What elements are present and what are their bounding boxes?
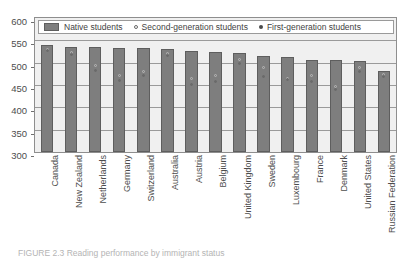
- x-tick: New Zealand: [59, 155, 83, 251]
- legend-entry: First-generation students: [259, 23, 361, 32]
- y-tick-mark: [31, 156, 34, 157]
- chart-legend: Native studentsSecond-generation student…: [38, 20, 394, 34]
- bar: [89, 47, 102, 152]
- first-generation-marker: [70, 53, 73, 56]
- first-generation-marker: [118, 79, 121, 82]
- bar: [330, 60, 343, 152]
- legend-label: First-generation students: [267, 23, 361, 32]
- legend-label: Native students: [64, 23, 123, 32]
- bar: [257, 56, 270, 152]
- bar: [185, 51, 198, 152]
- first-generation-marker: [214, 80, 217, 83]
- first-generation-marker: [142, 74, 145, 77]
- bar: [161, 49, 174, 152]
- x-tick: Denmark: [324, 155, 348, 251]
- x-tick: Belgium: [203, 155, 227, 251]
- legend-label: Second-generation students: [142, 23, 248, 32]
- second-generation-marker: [118, 74, 121, 77]
- y-tick-label: 400: [11, 106, 27, 116]
- y-tick-label: 300: [11, 151, 27, 161]
- bar: [233, 53, 246, 152]
- x-tick: Luxembourg: [276, 155, 300, 251]
- bar: [65, 47, 78, 152]
- x-tick: Russian Federation: [372, 155, 396, 251]
- bar: [113, 48, 126, 152]
- y-tick-label: 600: [11, 17, 27, 27]
- bar: [354, 61, 367, 152]
- bar-group: [209, 18, 222, 152]
- open-circle-icon: [134, 25, 138, 29]
- first-generation-marker: [94, 69, 97, 72]
- x-tick: Australia: [155, 155, 179, 251]
- bar-group: [306, 18, 319, 152]
- x-tick: Canada: [35, 155, 59, 251]
- legend-entry: Second-generation students: [134, 23, 248, 32]
- bar-group: [281, 18, 294, 152]
- y-axis: 600550500450400350300: [0, 11, 31, 159]
- first-generation-marker: [190, 83, 193, 86]
- x-tick-label: Russian Federation: [388, 155, 397, 233]
- x-tick: Austria: [179, 155, 203, 251]
- legend-square-swatch-icon: [44, 23, 59, 31]
- filled-circle-icon: [259, 25, 263, 29]
- bar-group: [354, 18, 367, 152]
- x-tick: Netherlands: [83, 155, 107, 251]
- bars-layer: [35, 18, 396, 152]
- bar-group: [161, 18, 174, 152]
- bar: [378, 71, 391, 152]
- bar-group: [378, 18, 391, 152]
- bar: [209, 52, 222, 152]
- bar-group: [233, 18, 246, 152]
- x-tick: United States: [348, 155, 372, 251]
- bar-group: [41, 18, 54, 152]
- bar-group: [137, 18, 150, 152]
- bar-group: [113, 18, 126, 152]
- bar: [281, 57, 294, 152]
- x-tick: Sweden: [252, 155, 276, 251]
- first-generation-marker: [46, 49, 49, 52]
- legend-entry: Native students: [44, 23, 123, 32]
- first-generation-marker: [238, 62, 241, 65]
- bar-group: [330, 18, 343, 152]
- x-tick: Germany: [107, 155, 131, 251]
- bar-group: [65, 18, 78, 152]
- bar-group: [185, 18, 198, 152]
- x-tick: Switzerland: [131, 155, 155, 251]
- x-axis: CanadaNew ZealandNetherlandsGermanySwitz…: [35, 155, 396, 251]
- figure-caption: FIGURE 2.3 Reading performance by immigr…: [18, 248, 388, 258]
- bar: [137, 48, 150, 152]
- second-generation-marker: [142, 70, 145, 73]
- bar: [41, 45, 54, 152]
- y-tick-label: 450: [11, 84, 27, 94]
- bar-group: [257, 18, 270, 152]
- y-tick-label: 500: [11, 62, 27, 72]
- y-tick-label: 350: [11, 129, 27, 139]
- x-tick: United Kingdom: [228, 155, 252, 251]
- second-generation-marker: [310, 74, 313, 77]
- bar-group: [89, 18, 102, 152]
- y-tick-label: 550: [11, 39, 27, 49]
- first-generation-marker: [262, 75, 265, 78]
- x-tick: France: [300, 155, 324, 251]
